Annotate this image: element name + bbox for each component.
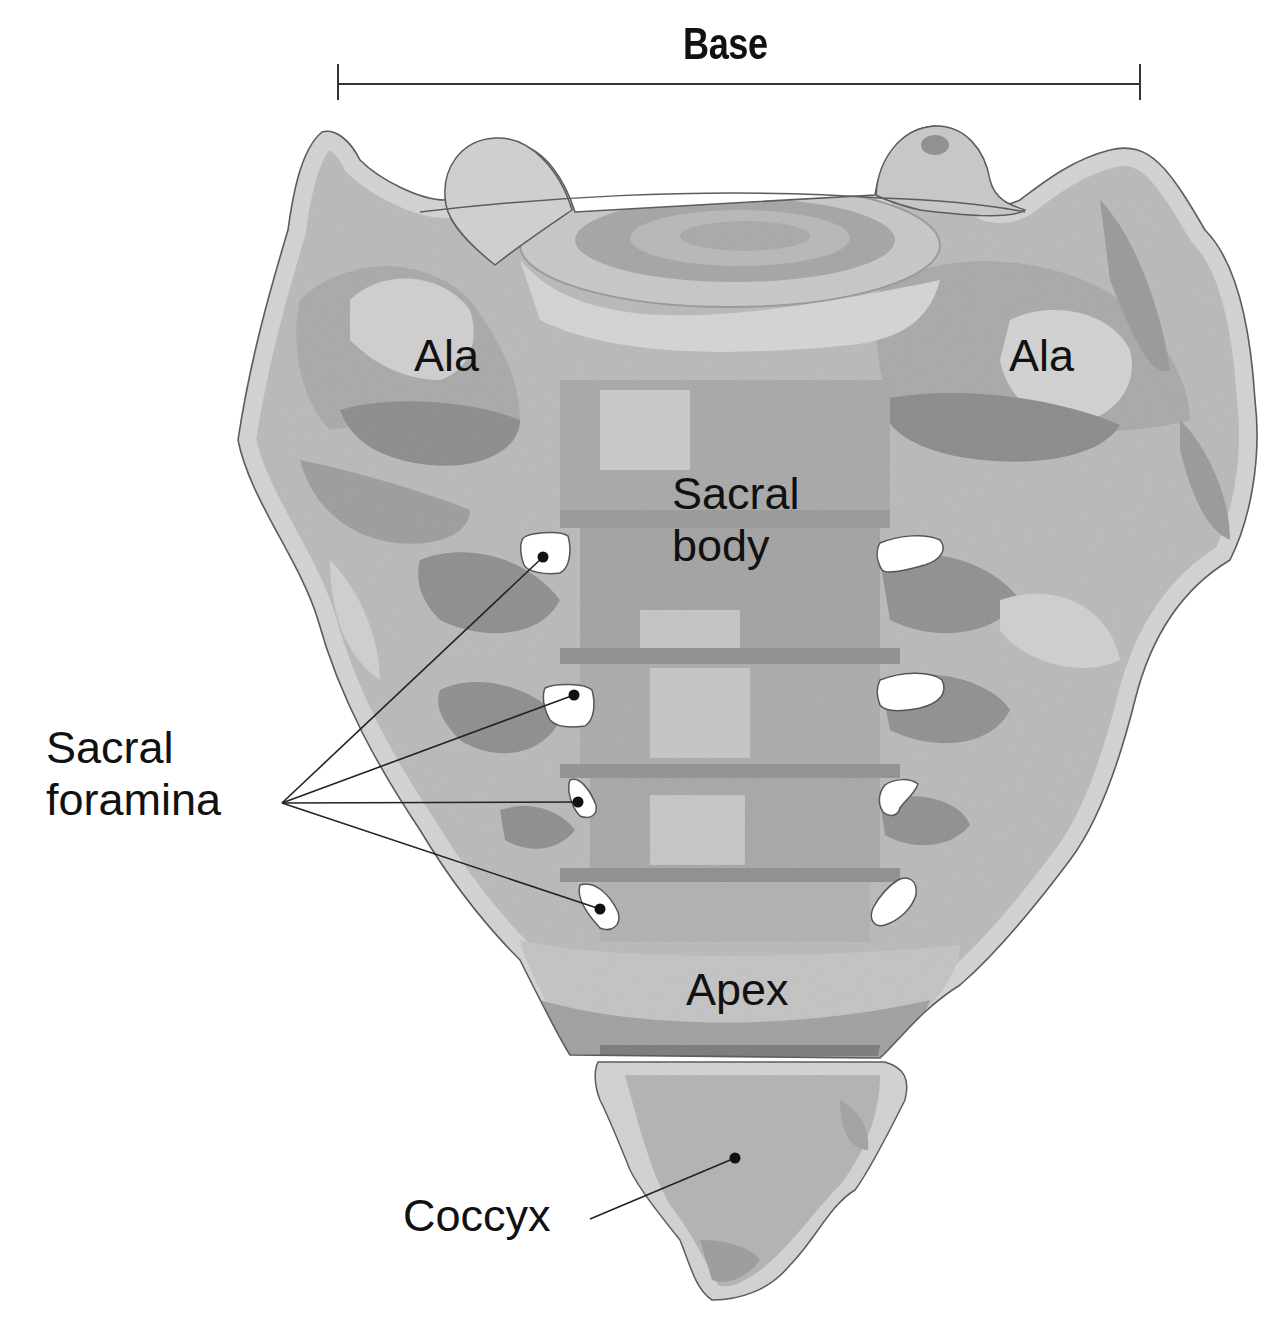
ala-left-label: Ala: [414, 330, 479, 382]
apex-label: Apex: [686, 964, 789, 1016]
ala-right-label: Ala: [1009, 330, 1074, 382]
sacrum-illustration: [0, 0, 1284, 1342]
sacral-body-label: Sacral body: [672, 468, 800, 572]
sacrum-bone: [220, 110, 1280, 1070]
coccyx-label: Coccyx: [403, 1190, 551, 1242]
sacral-foramina-label-line2: foramina: [46, 774, 221, 826]
base-label: Base: [683, 18, 768, 70]
coccyx-bone: [580, 1055, 920, 1315]
sacral-foramina-label: Sacral foramina: [46, 722, 221, 826]
sacral-body-label-line1: Sacral: [672, 468, 800, 520]
sacrum-diagram: Base Ala Ala Sacral body Sacral foramina…: [0, 0, 1284, 1342]
foramen-left-2: [543, 684, 594, 726]
sacral-body-label-line2: body: [672, 520, 800, 572]
sacral-foramina-label-line1: Sacral: [46, 722, 221, 774]
